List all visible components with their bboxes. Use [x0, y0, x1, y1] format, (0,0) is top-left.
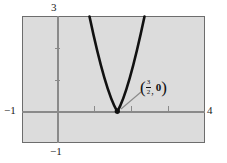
- fraction-three-halves: 3 2: [146, 79, 152, 96]
- fraction-numerator: 3: [146, 79, 152, 86]
- parabola-path: [90, 17, 145, 112]
- figure-container: 3 −1 −1 4 ( 3 2 , 0 ): [0, 0, 227, 163]
- close-paren: ): [161, 79, 167, 96]
- parabola-curve-svg: [0, 0, 227, 163]
- coordinate-comma: ,: [151, 86, 154, 96]
- vertex-coordinate-annotation: ( 3 2 , 0 ): [140, 79, 167, 96]
- vertex-point-marker: [115, 109, 120, 114]
- fraction-denominator: 2: [146, 89, 152, 96]
- y-axis-min-label: −1: [50, 146, 62, 157]
- y-axis-max-label: 3: [51, 2, 57, 13]
- x-axis-min-label: −1: [4, 105, 16, 116]
- x-axis-max-label: 4: [207, 105, 213, 116]
